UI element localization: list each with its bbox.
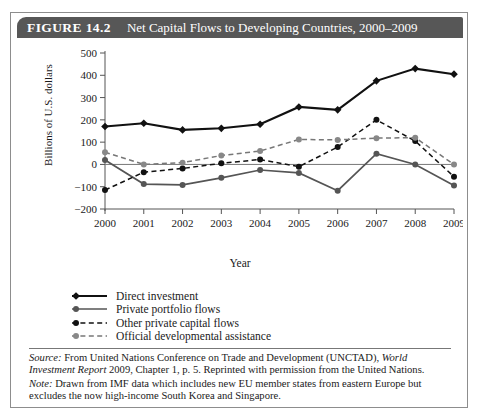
data-point — [373, 117, 379, 123]
legend-key-icon — [69, 290, 109, 302]
note-label: Note: — [29, 378, 53, 389]
data-point — [296, 136, 302, 142]
legend-label: Direct investment — [116, 290, 198, 302]
data-point — [218, 175, 224, 181]
legend-label: Private portfolio flows — [116, 303, 220, 315]
data-point — [451, 183, 457, 189]
figure-footnotes: Source: From United Nations Conference o… — [29, 352, 453, 404]
data-point — [411, 65, 419, 73]
chart-legend: Direct investmentPrivate portfolio flows… — [69, 289, 271, 343]
data-point — [296, 164, 302, 170]
data-point — [180, 165, 186, 171]
legend-key-icon — [69, 317, 109, 329]
legend-item-3: Other private capital flows — [69, 316, 271, 330]
series-line — [105, 154, 454, 191]
data-point — [257, 167, 263, 173]
data-point — [295, 103, 303, 111]
data-point — [256, 121, 264, 129]
x-tick-label: 2004 — [249, 217, 272, 229]
y-tick-label: −200 — [74, 203, 97, 215]
data-point — [373, 151, 379, 157]
data-point — [102, 187, 108, 193]
source-note: Source: From United Nations Conference o… — [29, 352, 453, 377]
y-tick-label: −100 — [74, 181, 97, 193]
x-tick-label: 2001 — [133, 217, 155, 229]
figure-number: FIGURE 14.2 — [27, 20, 111, 36]
figure-header-bar: FIGURE 14.2 Net Capital Flows to Develop… — [17, 17, 463, 38]
data-point — [451, 174, 457, 180]
chart-plot-area: Billions of U.S. dollars Year −200−10001… — [17, 41, 463, 283]
data-point — [257, 148, 263, 154]
x-tick-label: 2007 — [365, 217, 388, 229]
data-point — [335, 144, 341, 150]
data-point — [412, 161, 418, 167]
x-tick-label: 2003 — [210, 217, 233, 229]
y-tick-label: 0 — [92, 158, 98, 170]
x-tick-label: 2006 — [327, 217, 350, 229]
legend-key-icon — [69, 330, 109, 342]
data-point — [412, 135, 418, 141]
legend-key-icon — [69, 303, 109, 315]
x-tick-label: 2005 — [288, 217, 311, 229]
source-label: Source: — [29, 352, 62, 363]
note-text: Drawn from IMF data which includes new E… — [29, 378, 421, 401]
data-point — [296, 170, 302, 176]
y-tick-label: 100 — [81, 136, 98, 148]
legend-item-1: Direct investment — [69, 289, 271, 303]
y-tick-label: 400 — [81, 69, 98, 81]
source-text-b: 2009, Chapter 1, p. 5. Reprinted with pe… — [106, 364, 424, 375]
data-point — [218, 125, 226, 133]
legend-item-4: Official developmental assistance — [69, 330, 271, 344]
x-tick-label: 2009 — [443, 217, 463, 229]
data-point — [179, 126, 187, 134]
data-point — [141, 169, 147, 175]
data-point — [141, 181, 147, 187]
legend-label: Official developmental assistance — [116, 330, 271, 342]
x-tick-label: 2008 — [404, 217, 427, 229]
series-line — [105, 69, 454, 130]
y-tick-label: 300 — [81, 92, 98, 104]
y-tick-label: 500 — [81, 47, 98, 59]
data-point — [335, 137, 341, 143]
data-point — [450, 70, 458, 78]
line-chart-svg: −200−10001002003004005002000200120022003… — [17, 41, 463, 256]
figure-container: FIGURE 14.2 Net Capital Flows to Develop… — [10, 12, 468, 408]
x-tick-label: 2000 — [94, 217, 117, 229]
data-point — [102, 157, 108, 163]
series-line — [105, 120, 454, 190]
footnote-divider — [29, 348, 451, 349]
data-point — [140, 119, 148, 127]
data-point — [373, 135, 379, 141]
data-point — [141, 161, 147, 167]
figure-title: Net Capital Flows to Developing Countrie… — [127, 20, 418, 36]
data-point — [101, 123, 109, 131]
data-point — [218, 153, 224, 159]
legend-label: Other private capital flows — [116, 317, 239, 329]
data-point — [257, 157, 263, 163]
x-tick-label: 2002 — [172, 217, 194, 229]
source-text-a: From United Nations Conference on Trade … — [62, 352, 382, 363]
data-point — [335, 188, 341, 194]
data-point — [218, 160, 224, 166]
data-point — [451, 161, 457, 167]
legend-item-2: Private portfolio flows — [69, 303, 271, 317]
x-axis-label: Year — [17, 257, 463, 269]
data-point — [180, 160, 186, 166]
data-note: Note: Drawn from IMF data which includes… — [29, 378, 453, 403]
y-tick-label: 200 — [81, 114, 98, 126]
data-point — [102, 149, 108, 155]
data-point — [180, 182, 186, 188]
